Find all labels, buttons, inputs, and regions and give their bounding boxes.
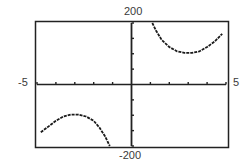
curve-left-branch: [41, 115, 110, 146]
curve-right-branch: [152, 23, 222, 53]
graph-plot: [0, 0, 250, 164]
axes: [37, 23, 226, 146]
